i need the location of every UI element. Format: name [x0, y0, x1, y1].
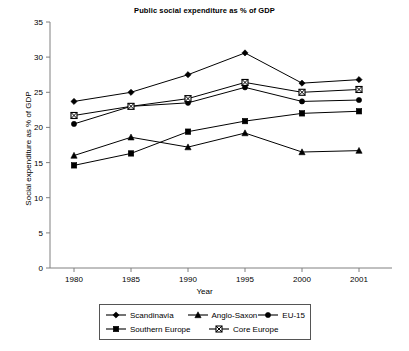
legend-item-anglo-saxon[interactable]: Anglo-Saxon [187, 310, 258, 320]
data-point [71, 98, 77, 104]
plot-area: 35 30 25 20 15 10 5 0 1980 1985 1990 199… [0, 0, 409, 351]
series-southern-europe [71, 109, 361, 169]
x-axis-label: Year [0, 287, 409, 296]
data-point [299, 99, 304, 104]
series-layer [71, 50, 362, 168]
data-point [242, 79, 248, 85]
y-tick-25: 25 [34, 88, 43, 97]
diamond-marker-icon [105, 310, 127, 320]
series-line [74, 133, 359, 155]
data-point [299, 89, 305, 95]
data-point [242, 130, 248, 136]
x-tick-1980: 1980 [65, 275, 83, 284]
crossed-square-marker-icon [208, 324, 230, 334]
legend-row-1: Scandinavia Anglo-Saxon EU-15 [105, 308, 305, 322]
y-tick-10: 10 [34, 194, 43, 203]
x-axis: 1980 1985 1990 1995 2000 2001 [50, 268, 392, 284]
data-point [128, 151, 133, 156]
y-tick-0: 0 [39, 264, 44, 273]
data-point [356, 86, 362, 92]
data-point [71, 112, 77, 118]
chart-legend: Scandinavia Anglo-Saxon EU-15 [99, 304, 311, 340]
series-line [74, 87, 359, 124]
x-tick-2001: 2001 [350, 275, 368, 284]
y-axis: 35 30 25 20 15 10 5 0 [34, 18, 50, 273]
data-point [71, 121, 76, 126]
data-point [185, 129, 190, 134]
data-point [185, 72, 191, 78]
data-point [242, 50, 248, 56]
legend-item-eu-15[interactable]: EU-15 [257, 310, 305, 320]
legend-label-anglo-saxon: Anglo-Saxon [212, 311, 258, 320]
chart-container: Public social expenditure as % of GDP So… [0, 0, 409, 351]
data-point [299, 111, 304, 116]
series-scandinavia [71, 50, 362, 105]
legend-label-scandinavia: Scandinavia [130, 311, 174, 320]
data-point [185, 96, 191, 102]
triangle-marker-icon [187, 310, 209, 320]
y-tick-20: 20 [34, 123, 43, 132]
y-tick-30: 30 [34, 53, 43, 62]
y-tick-5: 5 [39, 229, 44, 238]
x-tick-1985: 1985 [122, 275, 140, 284]
legend-item-core-europe[interactable]: Core Europe [208, 324, 280, 334]
circle-marker-icon [257, 310, 279, 320]
series-line [74, 53, 359, 101]
square-marker-icon [105, 324, 127, 334]
data-point [356, 109, 361, 114]
data-point [71, 163, 76, 168]
legend-label-eu-15: EU-15 [282, 311, 305, 320]
y-tick-15: 15 [34, 159, 43, 168]
data-point [356, 97, 361, 102]
data-point [356, 77, 362, 83]
data-point [128, 89, 134, 95]
x-tick-1995: 1995 [236, 275, 254, 284]
data-point [128, 134, 134, 140]
series-line [74, 111, 359, 165]
legend-label-southern-europe: Southern Europe [130, 325, 191, 334]
x-tick-2000: 2000 [293, 275, 311, 284]
legend-row-2: Southern Europe Core Europe [105, 322, 305, 336]
data-point [128, 103, 134, 109]
data-point [242, 118, 247, 123]
x-tick-1990: 1990 [179, 275, 197, 284]
series-anglo-saxon [71, 130, 362, 158]
y-tick-35: 35 [34, 18, 43, 27]
legend-item-scandinavia[interactable]: Scandinavia [105, 310, 187, 320]
legend-label-core-europe: Core Europe [233, 325, 278, 334]
legend-item-southern-europe[interactable]: Southern Europe [105, 324, 208, 334]
data-point [299, 80, 305, 86]
